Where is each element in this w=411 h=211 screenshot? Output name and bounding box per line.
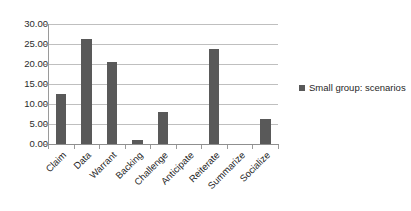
bar-slot [201, 24, 227, 144]
bar [158, 112, 168, 144]
bar-slot [74, 24, 100, 144]
y-axis-tick-label: 25.00 [4, 39, 48, 49]
bar-slot [48, 24, 74, 144]
y-axis-tick-label: 30.00 [4, 19, 48, 29]
bar [107, 62, 117, 144]
x-axis-label: Claim [44, 150, 68, 174]
bar-slot [125, 24, 151, 144]
bar [209, 49, 219, 144]
bar-slot [99, 24, 125, 144]
bar-series [48, 24, 278, 144]
bar-chart: 30.00 25.00 20.00 15.00 10.00 5.00 0.00 … [0, 0, 411, 211]
x-axis-label-slot: Socialize [252, 148, 278, 204]
bar-slot [253, 24, 279, 144]
y-axis-tick-label: 10.00 [4, 99, 48, 109]
y-axis-tick-label: 20.00 [4, 59, 48, 69]
bar-slot [150, 24, 176, 144]
y-axis-tick-label: 5.00 [4, 119, 48, 129]
x-axis-label-slot: Claim [48, 148, 74, 204]
x-axis-labels: ClaimDataWarrantBackingChallengeAnticipa… [48, 148, 279, 204]
bar [260, 119, 270, 144]
legend-square-marker [299, 85, 305, 91]
plot-area [48, 24, 278, 144]
x-axis-label: Data [72, 150, 93, 171]
bar [81, 39, 91, 144]
legend-label: Small group: scenarios [309, 83, 406, 93]
y-axis-labels: 30.00 25.00 20.00 15.00 10.00 5.00 0.00 [0, 24, 48, 144]
bar-slot [176, 24, 202, 144]
y-axis-line [48, 24, 49, 145]
legend: Small group: scenarios [299, 83, 406, 93]
y-axis-tick-label: 0.00 [4, 139, 48, 149]
y-axis-tick-label: 15.00 [4, 79, 48, 89]
bar-slot [227, 24, 253, 144]
bar [56, 94, 66, 144]
